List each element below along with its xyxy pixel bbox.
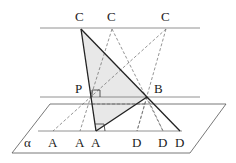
label-d3: D	[175, 135, 184, 150]
shaded-triangle-cab	[81, 29, 147, 131]
label-a3: A	[91, 135, 101, 150]
label-b: B	[154, 81, 163, 96]
label-p: P	[75, 81, 82, 96]
label-alpha: α	[24, 135, 31, 150]
label-c2: C	[107, 9, 116, 24]
label-a2: A	[75, 135, 85, 150]
diagram-canvas: C C C P B α A A A D D D	[0, 0, 236, 163]
label-a1: A	[48, 135, 58, 150]
label-c1: C	[75, 9, 84, 24]
geometry-diagram: C C C P B α A A A D D D	[0, 0, 236, 163]
label-c3: C	[161, 9, 170, 24]
label-d2: D	[158, 135, 167, 150]
label-d1: D	[132, 135, 141, 150]
